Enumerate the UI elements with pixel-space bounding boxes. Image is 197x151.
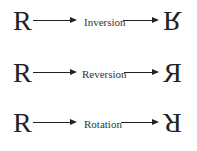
arrow-icon	[33, 72, 75, 73]
arrow-icon	[33, 122, 75, 123]
inverted-letter: R	[163, 6, 182, 36]
rotated-letter: R	[163, 108, 182, 138]
rotation-row: R Rotation R	[0, 108, 197, 138]
source-letter: R	[13, 58, 32, 88]
transform-label: Rotation	[84, 117, 122, 131]
arrow-icon	[121, 122, 157, 123]
arrow-icon	[124, 72, 157, 73]
transform-label: Inversion	[84, 15, 126, 29]
reversion-row: R Reversion R	[0, 58, 197, 88]
inversion-row: R Inversion R	[0, 6, 197, 36]
transform-label: Reversion	[82, 67, 127, 81]
source-letter: R	[13, 6, 32, 36]
arrow-icon	[123, 20, 157, 21]
source-letter: R	[13, 108, 32, 138]
reversed-letter: R	[163, 58, 182, 88]
arrow-icon	[33, 20, 75, 21]
